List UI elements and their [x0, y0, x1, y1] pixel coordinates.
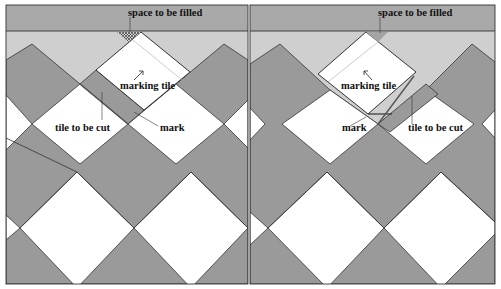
wall-band [6, 5, 248, 31]
left-panel: space to be filled marking tile tile to … [6, 5, 248, 288]
label-space-to-be-filled: space to be filled [128, 7, 203, 18]
label-marking-tile: marking tile [341, 80, 396, 91]
tile-cutting-diagram: space to be filled marking tile tile to … [0, 0, 501, 289]
label-marking-tile: marking tile [120, 80, 175, 91]
label-tile-to-be-cut: tile to be cut [55, 122, 111, 133]
label-tile-to-be-cut: tile to be cut [408, 122, 464, 133]
label-mark: mark [160, 122, 185, 133]
label-space-to-be-filled: space to be filled [378, 7, 453, 18]
wall-band [250, 5, 495, 31]
label-mark: mark [342, 122, 367, 133]
right-panel: space to be filled marking tile tile to … [250, 5, 495, 288]
